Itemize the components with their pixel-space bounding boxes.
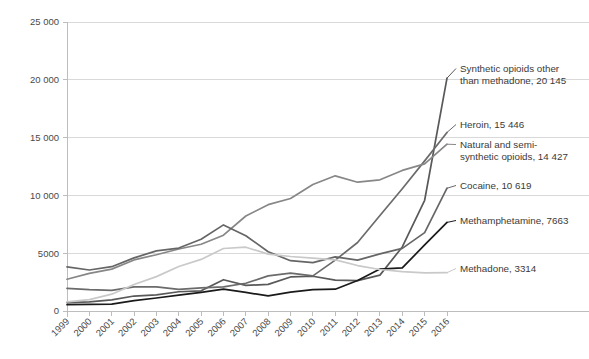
y-tick-label-15000: 15 000 [30,132,59,143]
y-tick-label-20000: 20 000 [30,74,59,85]
x-tick-label-2005: 2005 [183,316,206,339]
x-tick-label-2008: 2008 [250,316,273,339]
series-line-heroin [67,132,447,290]
series-line-natural-and-semi-synthetic-opioids [67,144,447,279]
chart-canvas: 25 00020 00015 00010 00050000 1999200020… [0,0,589,359]
x-tick-label-2011: 2011 [317,316,339,338]
x-tick-label-2013: 2013 [362,316,385,339]
y-tick-label-0: 0 [54,305,59,316]
x-tick-label-2015: 2015 [406,316,429,339]
y-tick-label-10000: 10 000 [30,190,59,201]
y-tick-label-25000: 25 000 [30,16,59,27]
series-label-heroin: Heroin, 15 446 [460,119,525,130]
x-tick-label-2010: 2010 [295,316,318,339]
series-label-methamphetamine: Methamphetamine, 7663 [460,215,569,226]
opioid-overdose-deaths-line-chart: 25 00020 00015 00010 00050000 1999200020… [0,0,589,359]
leader-line-heroin [447,125,456,133]
y-tick-label-5000: 5000 [38,248,59,259]
x-tick-label-2006: 2006 [205,316,228,339]
data-series-lines [67,78,447,305]
y-axis-tick-labels: 25 00020 00015 00010 00050000 [30,16,59,316]
leader-line-synthetic-opioids-other-than-methadone [447,69,456,79]
series-leader-lines [447,69,456,273]
series-label-synthetic-opioids-other-than-methadone: Synthetic opioids otherthan methadone, 2… [460,63,567,86]
series-line-cocaine [67,188,447,270]
series-end-labels: Synthetic opioids otherthan methadone, 2… [460,63,569,274]
x-tick-label-2004: 2004 [160,316,183,339]
series-label-methadone: Methadone, 3314 [460,263,537,274]
x-tick-label-2000: 2000 [71,316,94,339]
x-tick-label-2007: 2007 [228,316,251,339]
x-axis-tick-labels: 1999200020012002200320042005200620072008… [49,316,452,339]
x-tick-label-2001: 2001 [93,316,116,339]
x-tick-label-2014: 2014 [384,316,407,339]
leader-line-methadone [447,269,456,273]
x-tick-label-2003: 2003 [138,316,161,339]
x-tick-label-2016: 2016 [429,316,452,339]
leader-line-methamphetamine [447,221,456,223]
series-label-cocaine: Cocaine, 10 619 [460,180,531,191]
x-tick-label-1999: 1999 [49,316,72,339]
x-tick-label-2002: 2002 [116,316,139,339]
leader-line-cocaine [447,186,456,189]
x-tick-label-2009: 2009 [272,316,295,339]
x-tick-label-2012: 2012 [339,316,362,339]
series-label-natural-and-semi-synthetic-opioids: Natural and semi-synthetic opioids, 14 4… [460,139,568,162]
